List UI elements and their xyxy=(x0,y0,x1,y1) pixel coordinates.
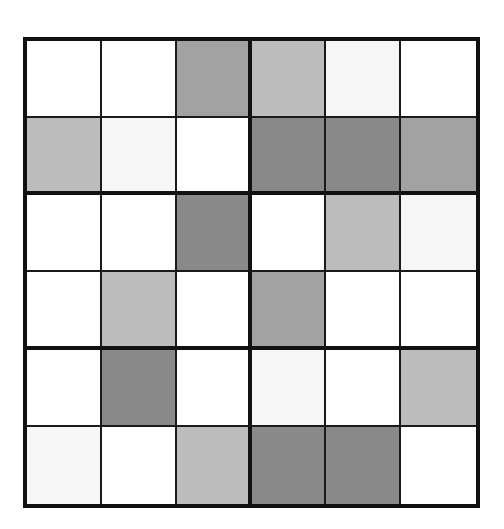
grid-cell-r4-c5[interactable] xyxy=(326,272,401,349)
grid-cell-r2-c6[interactable] xyxy=(401,118,476,195)
grid-cell-r5-c6[interactable] xyxy=(401,350,476,427)
grid-cell-r6-c4[interactable] xyxy=(252,427,327,504)
grid-cell-r5-c2[interactable] xyxy=(102,350,177,427)
grid-cell-r3-c6[interactable] xyxy=(401,195,476,272)
puzzle-grid xyxy=(23,37,480,508)
grid-cell-r2-c1[interactable] xyxy=(27,118,102,195)
grid-cell-r1-c1[interactable] xyxy=(27,41,102,118)
grid-cell-r3-c1[interactable] xyxy=(27,195,102,272)
grid-cell-r1-c3[interactable] xyxy=(177,41,252,118)
grid-cell-r6-c3[interactable] xyxy=(177,427,252,504)
grid-cell-r4-c1[interactable] xyxy=(27,272,102,349)
grid-cell-r4-c6[interactable] xyxy=(401,272,476,349)
grid-cell-r6-c1[interactable] xyxy=(27,427,102,504)
grid-cell-r2-c4[interactable] xyxy=(252,118,327,195)
grid-cell-r1-c6[interactable] xyxy=(401,41,476,118)
grid-cell-r3-c4[interactable] xyxy=(252,195,327,272)
grid-cell-r1-c5[interactable] xyxy=(326,41,401,118)
grid-cell-r5-c3[interactable] xyxy=(177,350,252,427)
grid-cell-r5-c4[interactable] xyxy=(252,350,327,427)
grid-cell-r5-c5[interactable] xyxy=(326,350,401,427)
grid-cell-r6-c6[interactable] xyxy=(401,427,476,504)
grid-cell-r4-c4[interactable] xyxy=(252,272,327,349)
grid-cell-r4-c3[interactable] xyxy=(177,272,252,349)
grid-cell-r5-c1[interactable] xyxy=(27,350,102,427)
grid-cell-r4-c2[interactable] xyxy=(102,272,177,349)
grid-cell-r3-c5[interactable] xyxy=(326,195,401,272)
grid-cell-r1-c2[interactable] xyxy=(102,41,177,118)
grid-cell-r1-c4[interactable] xyxy=(252,41,327,118)
grid-cell-r3-c3[interactable] xyxy=(177,195,252,272)
grid-cell-r2-c3[interactable] xyxy=(177,118,252,195)
grid-cell-r6-c2[interactable] xyxy=(102,427,177,504)
grid-cell-r3-c2[interactable] xyxy=(102,195,177,272)
grid-cell-r2-c2[interactable] xyxy=(102,118,177,195)
grid-cell-r2-c5[interactable] xyxy=(326,118,401,195)
grid-cell-r6-c5[interactable] xyxy=(326,427,401,504)
